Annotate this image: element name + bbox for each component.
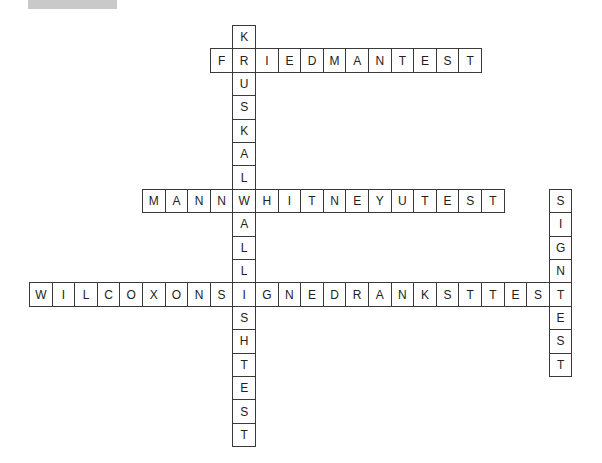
crossword-cell[interactable]: O [119, 282, 143, 306]
crossword-cell[interactable]: Y [368, 189, 392, 213]
crossword-cell[interactable]: I [232, 282, 256, 306]
crossword-cell[interactable]: T [232, 423, 256, 447]
crossword-cell[interactable]: H [255, 189, 279, 213]
crossword-cell[interactable]: X [142, 282, 166, 306]
crossword-cell[interactable]: D [300, 48, 324, 72]
crossword-cell[interactable]: R [232, 48, 256, 72]
crossword-cell[interactable]: I [549, 212, 573, 236]
crossword-cell[interactable]: A [232, 212, 256, 236]
crossword-cell[interactable]: L [232, 165, 256, 189]
crossword-cell[interactable]: S [232, 95, 256, 119]
crossword-cell[interactable]: L [232, 236, 256, 260]
crossword-cell[interactable]: T [300, 189, 324, 213]
crossword-cell[interactable]: N [323, 189, 347, 213]
crossword-cell[interactable]: T [458, 282, 482, 306]
crossword-cell[interactable]: E [300, 282, 324, 306]
crossword-cell[interactable]: N [391, 282, 415, 306]
crossword-cell[interactable]: T [391, 48, 415, 72]
crossword-cell[interactable]: E [436, 189, 460, 213]
crossword-cell[interactable]: S [436, 48, 460, 72]
crossword-cell[interactable]: L [74, 282, 98, 306]
crossword-cell[interactable]: U [391, 189, 415, 213]
crossword-cell[interactable]: K [232, 119, 256, 143]
crossword-cell[interactable]: A [368, 282, 392, 306]
crossword-cell[interactable]: E [504, 282, 528, 306]
crossword-cell[interactable]: G [549, 236, 573, 260]
crossword-cell[interactable]: N [278, 282, 302, 306]
crossword-cell[interactable]: T [549, 353, 573, 377]
crossword-cell[interactable]: R [345, 282, 369, 306]
crossword-cell[interactable]: N [187, 282, 211, 306]
crossword-cell[interactable]: K [232, 25, 256, 49]
crossword-cell[interactable]: N [368, 48, 392, 72]
crossword-cell[interactable]: O [165, 282, 189, 306]
crossword-cell[interactable]: E [278, 48, 302, 72]
crossword-cell[interactable]: T [458, 48, 482, 72]
crossword-cell[interactable]: M [323, 48, 347, 72]
crossword-cell[interactable]: A [345, 48, 369, 72]
crossword-cell[interactable]: H [232, 329, 256, 353]
crossword-cell[interactable]: T [413, 189, 437, 213]
crossword-grid: FRIEDMANTESTMANNWHITNEYUTESTWILCOXONSIGN… [0, 0, 602, 463]
crossword-cell[interactable]: E [413, 48, 437, 72]
crossword-cell[interactable]: E [345, 189, 369, 213]
crossword-cell[interactable]: M [142, 189, 166, 213]
crossword-cell[interactable]: F [210, 48, 234, 72]
crossword-cell[interactable]: S [232, 306, 256, 330]
crossword-cell[interactable]: S [458, 189, 482, 213]
crossword-cell[interactable]: I [255, 48, 279, 72]
crossword-cell[interactable]: A [165, 189, 189, 213]
crossword-cell[interactable]: S [526, 282, 550, 306]
crossword-cell[interactable]: S [436, 282, 460, 306]
crossword-cell[interactable]: K [413, 282, 437, 306]
crossword-cell[interactable]: T [232, 353, 256, 377]
crossword-cell[interactable]: E [232, 376, 256, 400]
crossword-cell[interactable]: A [232, 142, 256, 166]
crossword-cell[interactable]: D [323, 282, 347, 306]
crossword-cell[interactable]: T [549, 282, 573, 306]
crossword-cell[interactable]: C [97, 282, 121, 306]
crossword-cell[interactable]: T [481, 189, 505, 213]
crossword-cell[interactable]: L [232, 259, 256, 283]
crossword-cell[interactable]: G [255, 282, 279, 306]
crossword-cell[interactable]: S [232, 399, 256, 423]
crossword-cell[interactable]: S [549, 329, 573, 353]
crossword-cell[interactable]: T [481, 282, 505, 306]
crossword-cell[interactable]: E [549, 306, 573, 330]
crossword-cell[interactable]: S [549, 189, 573, 213]
crossword-cell[interactable]: W [232, 189, 256, 213]
crossword-cell[interactable]: N [549, 259, 573, 283]
crossword-cell[interactable]: S [210, 282, 234, 306]
crossword-cell[interactable]: U [232, 72, 256, 96]
crossword-cell[interactable]: I [278, 189, 302, 213]
crossword-cell[interactable]: W [29, 282, 53, 306]
crossword-cell[interactable]: N [210, 189, 234, 213]
crossword-cell[interactable]: I [52, 282, 76, 306]
crossword-cell[interactable]: N [187, 189, 211, 213]
